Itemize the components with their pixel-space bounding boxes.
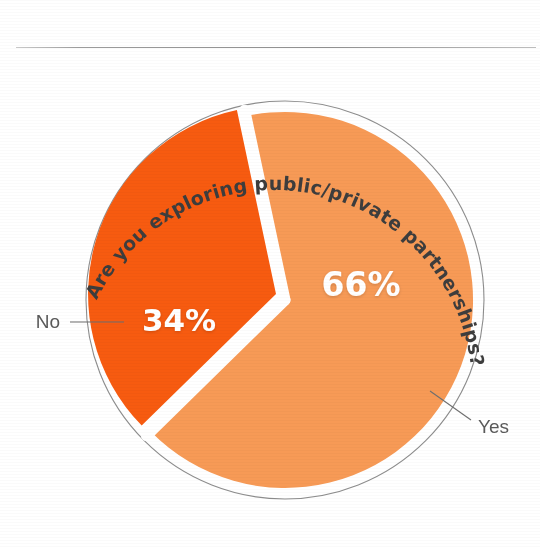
category-label-no: No (36, 311, 60, 332)
pie-chart-svg: 66% 34% No Yes Are you exploring public/… (0, 0, 540, 547)
chart-page: 66% 34% No Yes Are you exploring public/… (0, 0, 540, 547)
slice-value-yes: 66% (322, 265, 401, 304)
slice-value-no: 34% (142, 302, 216, 338)
pie-chart-figure: 66% 34% No Yes Are you exploring public/… (0, 0, 540, 547)
category-label-yes: Yes (478, 416, 509, 437)
